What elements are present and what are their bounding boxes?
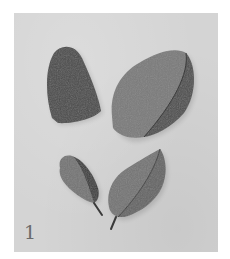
leaf-bottom-right <box>108 149 167 229</box>
leaves-illustration <box>14 13 218 252</box>
leaf-bottom-left <box>60 156 102 215</box>
figure-number: 1 <box>24 223 36 242</box>
leaf-top-left <box>47 47 103 125</box>
leaf-top-right <box>112 50 196 142</box>
leaf-photograph: 1 <box>14 13 218 252</box>
